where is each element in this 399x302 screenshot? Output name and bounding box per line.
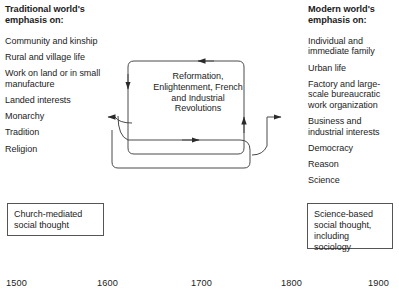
outer-loop-path [112,116,250,168]
diagram-canvas: Traditional world's emphasis on: Communi… [0,0,399,302]
science-based-thought-box: Science-based social thought, including … [307,203,393,249]
transition-loop-graphic [0,0,399,302]
timeline-tick: 1600 [97,278,118,288]
timeline-tick: 1500 [6,278,27,288]
arrow-exit-right-to-modern [252,117,281,155]
timeline-tick: 1900 [368,278,389,288]
timeline-tick: 1700 [191,278,212,288]
church-mediated-thought-box: Church-mediated social thought [7,203,104,236]
central-events-label: Reformation, Enlightenment, French and I… [152,71,244,114]
timeline-axis: 1500 1600 1700 1800 1900 [0,278,399,292]
timeline-tick: 1800 [281,278,302,288]
